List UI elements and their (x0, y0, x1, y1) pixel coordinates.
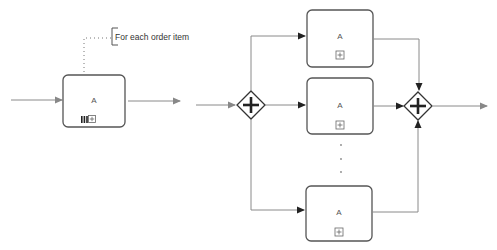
multi-instance-parallel-icon (81, 116, 88, 123)
vertical-ellipsis-icon (340, 144, 342, 173)
text-annotation[interactable]: For each order item (84, 28, 189, 72)
split-branch-bottom[interactable] (251, 119, 304, 210)
task-label: A (337, 32, 343, 41)
task-label: A (336, 208, 342, 217)
task-instance-n[interactable]: A (306, 186, 372, 241)
multi-instance-task[interactable]: A (63, 75, 125, 127)
join-branch-top[interactable] (373, 39, 419, 90)
bpmn-diagram-canvas: A For each order item (0, 0, 497, 250)
annotation-association-dotted (84, 38, 111, 72)
parallel-expansion-diagram: A A A (196, 10, 487, 241)
multi-instance-diagram: A For each order item (11, 28, 189, 127)
task-instance-2[interactable]: A (307, 78, 373, 134)
parallel-split-gateway[interactable] (237, 91, 265, 119)
task-label: A (337, 101, 343, 110)
task-instance-1[interactable]: A (307, 10, 373, 67)
annotation-text: For each order item (115, 32, 189, 42)
join-branch-bottom[interactable] (372, 121, 418, 212)
parallel-join-gateway[interactable] (404, 92, 432, 120)
task-label: A (91, 96, 97, 105)
split-branch-top[interactable] (251, 36, 305, 91)
